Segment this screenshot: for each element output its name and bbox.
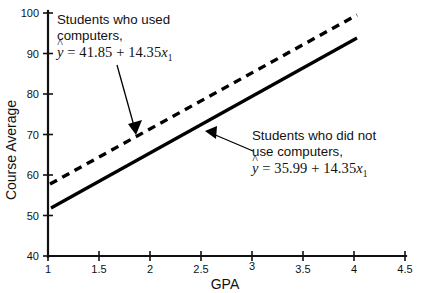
x-tick-label: 2 [147,263,153,275]
y-hat-symbol: y [57,45,64,61]
y-axis-title: Course Average [3,100,19,200]
x-axis-title: GPA [211,276,240,292]
y-tick-labels: 100 90 80 70 60 50 40 [21,7,39,262]
y-tick-label: 100 [21,7,39,19]
annotation-computers: Students who used computers, y = 41.85 +… [57,12,173,66]
x-tick-label: 1 [45,263,51,275]
annotation-computers-equation-sub: 1 [168,53,173,63]
annotation-no-computers: Students who did not use computers, y = … [252,128,376,182]
x-tick-label: 1.5 [91,263,106,275]
y-tick-label: 80 [27,88,39,100]
y-tick-label: 50 [27,210,39,222]
annotation-computers-line2: computers, [57,28,173,44]
annotation-no-computers-equation: y = 35.99 + 14.35x1 [252,161,376,182]
annotation-no-computers-equation-rhs: = 35.99 + 14.35 [262,160,356,176]
y-tick-label: 70 [27,129,39,141]
y-tick-label: 60 [27,169,39,181]
y-hat-symbol: y [252,161,259,177]
annotation-computers-equation-rhs: = 41.85 + 14.35 [67,44,161,60]
x-tick-label: 4 [351,263,357,275]
x-tick-label: 3 [249,260,255,272]
y-tick-label: 90 [27,48,39,60]
annotation-arrow-no-computers [205,126,253,151]
y-tick-label: 40 [27,250,39,262]
annotation-computers-line1: Students who used [57,12,173,28]
annotation-no-computers-line2: use computers, [252,144,376,160]
x-tick-label: 3.5 [295,263,310,275]
chart-figure: 100 90 80 70 60 50 40 1 1.5 2 2.5 3 3.5 … [0,0,422,293]
annotation-no-computers-line1: Students who did not [252,128,376,144]
x-tick-labels: 1 1.5 2 2.5 3 3.5 4 4.5 [45,260,413,275]
x-tick-label: 4.5 [397,263,412,275]
x-tick-label: 2.5 [193,263,208,275]
annotation-arrow-computers [117,65,142,135]
annotation-computers-equation: y = 41.85 + 14.35x1 [57,45,173,66]
annotation-no-computers-equation-sub: 1 [363,169,368,179]
